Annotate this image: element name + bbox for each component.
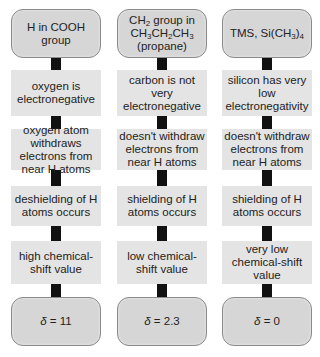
chemical-shift-result: δ = 0 — [222, 297, 312, 346]
step-text: doesn't withdraw electrons from near H a… — [222, 130, 312, 169]
shift-value: 11 — [60, 315, 72, 328]
compound-label: TMS, Si(CH3)4 — [230, 27, 304, 40]
step-box: low chemical-shift value — [117, 241, 207, 284]
chemical-shift-result: δ = 2.3 — [117, 297, 207, 346]
chemical-shift-result: δ = 11 — [11, 297, 101, 346]
connector — [157, 58, 167, 70]
connector — [51, 226, 61, 241]
equals-sign: = — [151, 315, 164, 328]
connector — [157, 116, 167, 129]
step-text: oxygen atom withdraws electrons from nea… — [11, 124, 101, 176]
step-text: silicon has very low electronegativity — [222, 74, 312, 113]
step-box: carbon is not very electronegative — [117, 70, 207, 116]
step-box: high chemical-shift value — [11, 241, 101, 284]
step-box: shielding of H atoms occurs — [222, 186, 312, 226]
shift-value: 2.3 — [164, 315, 180, 328]
column-2: CH2 group in CH3CH2CH3 (propane)carbon i… — [117, 0, 207, 357]
connector — [157, 284, 167, 297]
step-text: oxygen is electronegative — [11, 80, 101, 106]
step-text: deshielding of H atoms occurs — [11, 193, 101, 219]
step-box: oxygen is electronegative — [11, 70, 101, 116]
connector — [262, 116, 272, 129]
connector — [51, 284, 61, 297]
step-box: doesn't withdraw electrons from near H a… — [222, 129, 312, 170]
step-text: shielding of H atoms occurs — [117, 193, 207, 219]
equals-sign: = — [260, 315, 273, 328]
step-text: very low chemical-shift value — [222, 243, 312, 282]
column-3: TMS, Si(CH3)4silicon has very low electr… — [222, 0, 312, 357]
step-text: high chemical-shift value — [11, 250, 101, 276]
compound-label: H in COOH group — [12, 21, 100, 47]
step-text: doesn't withdraw electrons from near H a… — [117, 130, 207, 169]
connector — [157, 170, 167, 186]
step-text: shielding of H atoms occurs — [222, 193, 312, 219]
step-text: low chemical-shift value — [117, 250, 207, 276]
connector — [262, 170, 272, 186]
compound-header: TMS, Si(CH3)4 — [222, 9, 312, 58]
connector — [262, 284, 272, 297]
connector — [262, 226, 272, 241]
connector — [157, 226, 167, 241]
step-box: doesn't withdraw electrons from near H a… — [117, 129, 207, 170]
step-box: oxygen atom withdraws electrons from nea… — [11, 129, 101, 170]
step-box: very low chemical-shift value — [222, 241, 312, 284]
connector — [262, 58, 272, 70]
compound-label: CH2 group in CH3CH2CH3 (propane) — [118, 14, 206, 53]
compound-header: CH2 group in CH3CH2CH3 (propane) — [117, 9, 207, 58]
compound-header: H in COOH group — [11, 9, 101, 58]
equals-sign: = — [47, 315, 60, 328]
step-box: shielding of H atoms occurs — [117, 186, 207, 226]
step-text: carbon is not very electronegative — [117, 74, 207, 113]
column-1: H in COOH groupoxygen is electronegative… — [11, 0, 101, 357]
step-box: silicon has very low electronegativity — [222, 70, 312, 116]
shift-value: 0 — [274, 315, 280, 328]
step-box: deshielding of H atoms occurs — [11, 186, 101, 226]
connector — [51, 58, 61, 70]
